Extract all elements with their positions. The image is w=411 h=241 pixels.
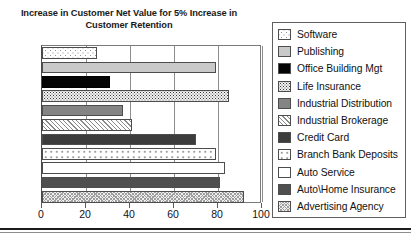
bar-industrial-distribution (42, 105, 123, 117)
gridline-100 (262, 46, 263, 202)
legend-swatch-icon (278, 149, 291, 160)
x-tick-label-0: 0 (38, 208, 44, 220)
legend-item-label: Auto Service (297, 167, 355, 178)
x-tick-label-100: 100 (252, 208, 270, 220)
legend-swatch-icon (278, 46, 291, 57)
legend-item-label: Industrial Distribution (297, 98, 392, 109)
legend-item[interactable]: Credit Card (273, 129, 405, 146)
legend-item-label: Industrial Brokerage (297, 115, 388, 126)
legend-item[interactable]: Publishing (273, 43, 405, 60)
legend-item[interactable]: Auto Service (273, 164, 405, 181)
legend-swatch-icon (278, 132, 291, 143)
legend-item-label: Life Insurance (297, 81, 361, 92)
bar-auto-service (42, 162, 225, 174)
chart-figure: Increase in Customer Net Value for 5% In… (0, 0, 411, 241)
bar-publishing (42, 62, 216, 74)
chart-legend: SoftwarePublishingOffice Building MgtLif… (272, 22, 406, 218)
bar-software (42, 47, 97, 59)
legend-item[interactable]: Industrial Brokerage (273, 112, 405, 129)
legend-item[interactable]: Advertising Agency (273, 198, 405, 215)
legend-item[interactable]: Life Insurance (273, 78, 405, 95)
legend-item[interactable]: Industrial Distribution (273, 95, 405, 112)
legend-item-label: Credit Card (297, 132, 349, 143)
legend-swatch-icon (278, 63, 291, 74)
x-axis-tick-labels: 020406080100 (0, 208, 300, 224)
legend-item[interactable]: Branch Bank Deposits (273, 146, 405, 163)
legend-swatch-icon (278, 115, 291, 126)
legend-swatch-icon (278, 201, 291, 212)
x-tick-label-20: 20 (79, 208, 91, 220)
legend-item[interactable]: Software (273, 26, 405, 43)
legend-item-label: Office Building Mgt (297, 63, 382, 74)
legend-item[interactable]: Office Building Mgt (273, 60, 405, 77)
legend-swatch-icon (278, 98, 291, 109)
bottom-divider-rule-secondary (0, 232, 411, 233)
bar-auto-home-insurance (42, 177, 220, 189)
bar-life-insurance (42, 90, 229, 102)
x-tick-label-80: 80 (211, 208, 223, 220)
legend-item-label: Branch Bank Deposits (297, 149, 398, 160)
bar-branch-bank-deposits (42, 148, 216, 160)
plot-inner (42, 46, 260, 202)
bar-credit-card (42, 134, 196, 146)
legend-item-label: Publishing (297, 46, 344, 57)
legend-swatch-icon (278, 167, 291, 178)
plot-area (41, 45, 261, 203)
bar-advertising-agency (42, 191, 244, 203)
x-tick-label-40: 40 (123, 208, 135, 220)
legend-item-label: Auto\Home Insurance (297, 184, 396, 195)
bar-industrial-brokerage (42, 119, 132, 131)
legend-swatch-icon (278, 29, 291, 40)
x-tick-label-60: 60 (167, 208, 179, 220)
legend-swatch-icon (278, 184, 291, 195)
chart-title-line-1: Increase in Customer Net Value for 5% In… (21, 8, 237, 18)
bottom-divider-rule (0, 228, 411, 230)
legend-item-label: Software (297, 29, 337, 40)
legend-swatch-icon (278, 81, 291, 92)
chart-title: Increase in Customer Net Value for 5% In… (6, 7, 252, 31)
bar-office-building-mgt (42, 76, 110, 88)
legend-item[interactable]: Auto\Home Insurance (273, 181, 405, 198)
legend-item-label: Advertising Agency (297, 201, 384, 212)
chart-title-line-2: Customer Retention (85, 20, 172, 30)
